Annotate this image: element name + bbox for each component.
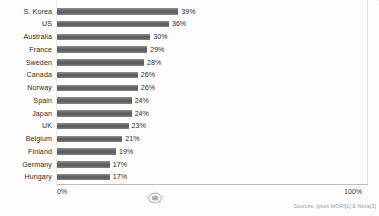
bar-row: US36% (0, 18, 379, 31)
category-label: Finland (0, 146, 52, 159)
category-label: Spain (0, 95, 52, 108)
category-label: S. Korea (0, 6, 52, 19)
category-label: France (0, 44, 52, 57)
x-axis-tick-max: 100% (344, 188, 362, 196)
bar-row: Hungary17% (0, 171, 379, 184)
chart-screenshot: S. Korea39%US36%Australia30%France29%Swe… (0, 0, 379, 216)
bar (57, 72, 138, 79)
bar-value-label: 17% (113, 171, 127, 184)
bar-value-label: 26% (141, 69, 155, 82)
bar-row: S. Korea39% (0, 6, 379, 19)
bar-value-label: 28% (147, 57, 161, 70)
bar-value-label: 30% (153, 31, 167, 44)
bar (57, 123, 129, 130)
bar (57, 8, 178, 15)
category-label: Sweden (0, 57, 52, 70)
x-axis-tick-min: 0% (57, 188, 67, 196)
bar (57, 34, 150, 41)
bar (57, 174, 110, 181)
bar-value-label: 26% (141, 82, 155, 95)
bar-row: Sweden28% (0, 57, 379, 70)
bar (57, 21, 169, 28)
category-label: Canada (0, 69, 52, 82)
bar-row: Finland19% (0, 146, 379, 159)
category-label: UK (0, 120, 52, 133)
bar-chart: S. Korea39%US36%Australia30%France29%Swe… (0, 0, 379, 216)
bar-value-label: 17% (113, 159, 127, 172)
bar (57, 110, 132, 117)
bar-value-label: 24% (135, 108, 149, 121)
category-label: Hungary (0, 171, 52, 184)
bar-row: Australia30% (0, 31, 379, 44)
bar-row: Canada26% (0, 69, 379, 82)
category-label: Belgium (0, 133, 52, 146)
bar (57, 136, 122, 143)
category-label: Australia (0, 31, 52, 44)
bar (57, 59, 144, 66)
bar (57, 161, 110, 168)
bar-row: Japan24% (0, 108, 379, 121)
x-axis-line (57, 184, 368, 185)
bar-value-label: 36% (172, 18, 186, 31)
bar-value-label: 19% (119, 146, 133, 159)
bar-row: Germany17% (0, 159, 379, 172)
bar (57, 148, 116, 155)
oval-stamp-watermark-icon (145, 191, 165, 205)
bar-value-label: 39% (181, 6, 195, 19)
bar-row: France29% (0, 44, 379, 57)
bar-row: Norway26% (0, 82, 379, 95)
source-note: Sources: Ipsos MORI[1] & Nova[1] (294, 203, 376, 209)
category-label: US (0, 18, 52, 31)
category-label: Japan (0, 108, 52, 121)
bar-value-label: 24% (135, 95, 149, 108)
bar-row: Belgium21% (0, 133, 379, 146)
bar-value-label: 21% (125, 133, 139, 146)
bar-value-label: 29% (150, 44, 164, 57)
bar (57, 46, 147, 53)
bar (57, 85, 138, 92)
bar-row: UK23% (0, 120, 379, 133)
category-label: Germany (0, 159, 52, 172)
category-label: Norway (0, 82, 52, 95)
bar-value-label: 23% (132, 120, 146, 133)
bar (57, 97, 132, 104)
bar-row: Spain24% (0, 95, 379, 108)
